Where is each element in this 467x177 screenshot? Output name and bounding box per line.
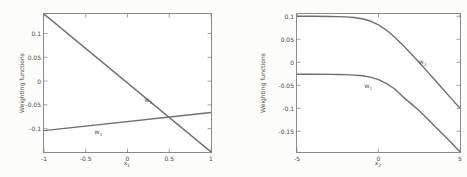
- curve-w1: [297, 74, 460, 152]
- figure-canvas: Weighting functions w2 w1 x1 -1-0.500.51…: [0, 0, 467, 177]
- y-axis-label: Weighting functions: [259, 13, 267, 153]
- curve-label-w1-sub: 1: [370, 87, 373, 92]
- curve-label-w2-sub: 2: [424, 63, 427, 68]
- right-plot-area: [296, 13, 461, 153]
- x-tick-label: 5: [458, 155, 462, 162]
- right-chart-panel: Weighting functions w2 w1 x2 -5050.10.05…: [0, 0, 467, 177]
- y-tick-label: 0.05: [270, 36, 294, 43]
- y-tick-label: 0.1: [270, 13, 294, 20]
- curve-label-w1: w1: [364, 82, 372, 90]
- y-tick-label: 0: [270, 59, 294, 66]
- y-tick-label: -0.1: [270, 105, 294, 112]
- x-tick-label: -5: [294, 155, 300, 162]
- x-axis-label-sub: 2: [378, 163, 381, 168]
- y-tick-label: -0.05: [270, 82, 294, 89]
- x-tick-label: 0: [377, 155, 381, 162]
- curve-label-w2: w2: [418, 58, 426, 66]
- curve-w2: [297, 16, 460, 108]
- y-tick-label: -0.15: [270, 128, 294, 135]
- plot-svg: [297, 14, 460, 152]
